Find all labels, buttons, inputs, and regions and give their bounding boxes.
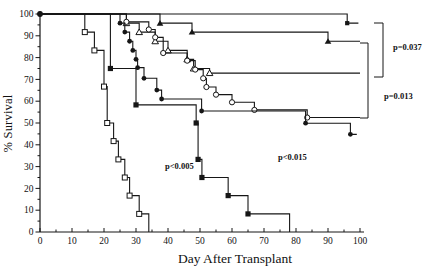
survival-figure: 0102030405060708090100010203040506070809… bbox=[0, 0, 432, 274]
x-tick-label: 80 bbox=[291, 236, 301, 246]
open-square-marker bbox=[127, 193, 132, 198]
filled-circle-marker bbox=[159, 97, 164, 102]
filled-square-marker bbox=[133, 102, 138, 107]
open-square-marker bbox=[105, 121, 110, 126]
filled-square-marker bbox=[108, 66, 113, 71]
open-circle-marker bbox=[153, 35, 158, 40]
filled-circle-marker bbox=[118, 21, 123, 26]
filled-square-small-marker bbox=[345, 21, 349, 25]
p-value-annotation: p=0.037 bbox=[393, 42, 422, 52]
open-circle-marker bbox=[146, 27, 151, 32]
p-value-annotation: p<0.005 bbox=[165, 161, 194, 171]
open-circle-marker bbox=[213, 92, 218, 97]
open-circle-marker bbox=[185, 58, 190, 63]
filled-circle-marker bbox=[348, 132, 353, 137]
x-tick-label: 10 bbox=[67, 236, 77, 246]
x-axis-title: Day After Transplant bbox=[120, 251, 350, 267]
open-circle-marker bbox=[193, 67, 198, 72]
open-circle-marker bbox=[201, 76, 206, 81]
y-tick-label: 100 bbox=[19, 9, 34, 19]
open-square-marker bbox=[102, 84, 107, 89]
filled-circle-marker bbox=[199, 109, 204, 114]
open-square-marker bbox=[82, 30, 87, 35]
x-tick-label: 70 bbox=[259, 236, 269, 246]
curve-open-triangle bbox=[40, 14, 360, 73]
y-tick-label: 60 bbox=[24, 96, 34, 106]
open-square-marker bbox=[137, 211, 142, 216]
x-tick-label: 50 bbox=[195, 236, 205, 246]
open-circle-marker bbox=[204, 84, 209, 89]
survival-chart: 0102030405060708090100010203040506070809… bbox=[0, 0, 432, 274]
x-tick-label: 30 bbox=[131, 236, 141, 246]
x-tick-label: 100 bbox=[353, 236, 368, 246]
y-tick-label: 20 bbox=[24, 184, 34, 194]
filled-square-marker bbox=[226, 193, 231, 198]
bracket-p-0.037 bbox=[374, 23, 383, 77]
p-value-annotation: p<0.015 bbox=[278, 152, 307, 162]
x-tick-label: 60 bbox=[227, 236, 237, 246]
y-tick-label: 80 bbox=[24, 53, 34, 63]
origin-dot bbox=[37, 11, 43, 17]
x-tick-label: 90 bbox=[323, 236, 333, 246]
filled-circle-marker bbox=[154, 88, 159, 93]
filled-square-marker bbox=[194, 120, 199, 125]
y-tick-label: 10 bbox=[24, 205, 34, 215]
filled-circle-marker bbox=[142, 76, 147, 81]
bracket-p-0.013 bbox=[360, 43, 368, 118]
y-tick-label: 70 bbox=[24, 75, 34, 85]
x-tick-label: 40 bbox=[163, 236, 173, 246]
x-tick-label: 0 bbox=[38, 236, 43, 246]
filled-square-marker bbox=[195, 157, 200, 162]
p-value-annotation: p=0.013 bbox=[384, 91, 413, 101]
y-tick-label: 0 bbox=[29, 227, 34, 237]
x-tick-label: 20 bbox=[99, 236, 109, 246]
filled-circle-marker bbox=[134, 57, 139, 62]
filled-circle-marker bbox=[122, 30, 127, 35]
open-circle-marker bbox=[252, 107, 257, 112]
open-circle-marker bbox=[161, 50, 166, 55]
curve-filled-triangle bbox=[40, 14, 360, 41]
open-square-marker bbox=[92, 48, 97, 53]
filled-circle-marker bbox=[130, 48, 135, 53]
filled-circle-marker bbox=[127, 39, 132, 44]
y-axis-title: % Survival bbox=[1, 92, 16, 156]
open-square-marker bbox=[111, 139, 116, 144]
filled-circle-marker bbox=[303, 121, 308, 126]
y-tick-label: 50 bbox=[24, 118, 34, 128]
y-tick-label: 40 bbox=[24, 140, 34, 150]
open-circle-marker bbox=[229, 100, 234, 105]
filled-square-marker bbox=[199, 175, 204, 180]
y-tick-label: 30 bbox=[24, 162, 34, 172]
curve-filled-square-small-top bbox=[40, 14, 358, 23]
filled-square-marker bbox=[245, 211, 250, 216]
open-square-marker bbox=[116, 157, 121, 162]
y-tick-label: 90 bbox=[24, 31, 34, 41]
curve-open-circle bbox=[40, 14, 360, 118]
curve-filled-square bbox=[40, 14, 290, 232]
open-square-marker bbox=[122, 175, 127, 180]
